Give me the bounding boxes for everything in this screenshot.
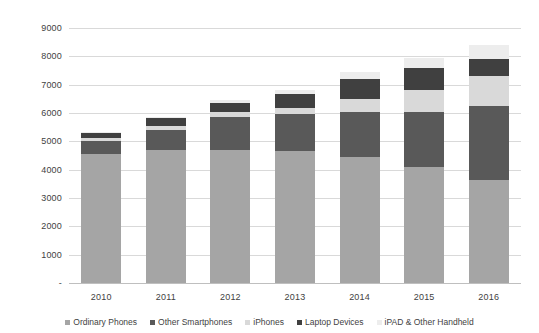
bar-stack bbox=[340, 72, 380, 283]
bar-segment[interactable] bbox=[210, 117, 250, 150]
bar-stack bbox=[275, 90, 315, 284]
y-axis-tick-label: 7000 bbox=[41, 80, 62, 90]
bar-stack bbox=[404, 58, 444, 283]
legend-swatch-icon bbox=[65, 320, 70, 325]
bar-segment[interactable] bbox=[210, 150, 250, 283]
legend-label: Laptop Devices bbox=[305, 317, 364, 327]
x-axis-tick-label: 2011 bbox=[156, 292, 176, 302]
bar-group[interactable]: 2014 bbox=[340, 28, 380, 283]
x-axis-tick-label: 2015 bbox=[414, 292, 435, 302]
y-axis-tick-label: 6000 bbox=[41, 108, 62, 118]
legend-item[interactable]: Ordinary Phones bbox=[65, 317, 137, 327]
y-axis-tick-label: 4000 bbox=[41, 165, 62, 175]
bar-segment[interactable] bbox=[404, 90, 444, 111]
bar-segment[interactable] bbox=[146, 118, 186, 126]
bar-series-group: 2010201120122013201420152016 bbox=[69, 28, 521, 283]
x-axis-tick-label: 2014 bbox=[349, 292, 370, 302]
legend-item[interactable]: iPAD & Other Handheld bbox=[377, 317, 474, 327]
legend-swatch-icon bbox=[377, 320, 382, 325]
legend-item[interactable]: Other Smartphones bbox=[150, 317, 232, 327]
bar-segment[interactable] bbox=[469, 45, 509, 59]
plot-area: -100020003000400050006000700080009000 20… bbox=[69, 28, 521, 283]
bar-segment[interactable] bbox=[275, 114, 315, 151]
y-axis-tick-label: 5000 bbox=[41, 136, 62, 146]
legend-label: iPAD & Other Handheld bbox=[385, 317, 474, 327]
bar-segment[interactable] bbox=[340, 99, 380, 112]
bar-segment[interactable] bbox=[146, 130, 186, 150]
legend-item[interactable]: iPhones bbox=[245, 317, 284, 327]
legend-swatch-icon bbox=[245, 320, 250, 325]
y-axis-tick-label: 8000 bbox=[41, 51, 62, 61]
bar-group[interactable]: 2010 bbox=[81, 28, 121, 283]
bar-segment[interactable] bbox=[340, 157, 380, 283]
bar-group[interactable]: 2011 bbox=[146, 28, 186, 283]
x-axis-tick-label: 2013 bbox=[285, 292, 306, 302]
bar-segment[interactable] bbox=[404, 68, 444, 91]
bar-segment[interactable] bbox=[340, 112, 380, 157]
legend-item[interactable]: Laptop Devices bbox=[297, 317, 364, 327]
y-axis-tick-label: 2000 bbox=[41, 221, 62, 231]
bar-segment[interactable] bbox=[469, 106, 509, 180]
legend-swatch-icon bbox=[150, 320, 155, 325]
bar-segment[interactable] bbox=[146, 150, 186, 283]
bar-segment[interactable] bbox=[275, 151, 315, 283]
legend-label: Ordinary Phones bbox=[73, 317, 137, 327]
bar-segment[interactable] bbox=[275, 94, 315, 108]
x-axis-tick-label: 2016 bbox=[478, 292, 499, 302]
bar-segment[interactable] bbox=[469, 59, 509, 76]
bar-group[interactable]: 2015 bbox=[404, 28, 444, 283]
y-axis-tick-label: 1000 bbox=[41, 250, 62, 260]
x-axis-tick-label: 2012 bbox=[220, 292, 241, 302]
bar-segment[interactable] bbox=[81, 154, 121, 283]
bar-stack bbox=[210, 100, 250, 283]
bar-segment[interactable] bbox=[340, 79, 380, 99]
bar-segment[interactable] bbox=[275, 108, 315, 115]
bar-group[interactable]: 2016 bbox=[469, 28, 509, 283]
bar-segment[interactable] bbox=[404, 112, 444, 167]
axis-baseline bbox=[69, 283, 521, 284]
chart-legend: Ordinary PhonesOther SmartphonesiPhonesL… bbox=[0, 317, 539, 327]
x-axis-tick-label: 2010 bbox=[91, 292, 112, 302]
legend-label: Other Smartphones bbox=[158, 317, 232, 327]
bar-stack bbox=[469, 45, 509, 283]
y-axis-tick-label: 9000 bbox=[41, 23, 62, 33]
bar-segment[interactable] bbox=[210, 103, 250, 112]
legend-swatch-icon bbox=[297, 320, 302, 325]
bar-segment[interactable] bbox=[404, 58, 444, 68]
bar-segment[interactable] bbox=[469, 76, 509, 106]
bar-segment[interactable] bbox=[469, 180, 509, 283]
bar-stack bbox=[146, 117, 186, 283]
y-axis-tick-label: 3000 bbox=[41, 193, 62, 203]
bar-group[interactable]: 2013 bbox=[275, 28, 315, 283]
legend-label: iPhones bbox=[253, 317, 284, 327]
bar-segment[interactable] bbox=[81, 141, 121, 154]
bar-group[interactable]: 2012 bbox=[210, 28, 250, 283]
bar-segment[interactable] bbox=[404, 167, 444, 283]
bar-segment[interactable] bbox=[340, 72, 380, 79]
bar-stack bbox=[81, 132, 121, 283]
y-axis-tick-label: - bbox=[59, 278, 62, 288]
chart-container: -100020003000400050006000700080009000 20… bbox=[0, 0, 539, 333]
